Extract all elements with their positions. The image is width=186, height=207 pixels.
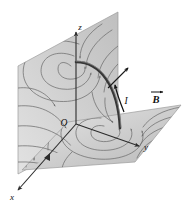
z-axis-label: z [77, 22, 82, 32]
y-axis-label: y [143, 142, 148, 152]
x-axis-label: x [9, 192, 14, 202]
origin-label: O [61, 118, 68, 128]
figure-canvas: z y x O I B [0, 0, 186, 207]
bfield-label: B [151, 94, 159, 105]
physics-figure-container: z y x O I B [0, 0, 186, 207]
current-label: I [123, 96, 128, 106]
